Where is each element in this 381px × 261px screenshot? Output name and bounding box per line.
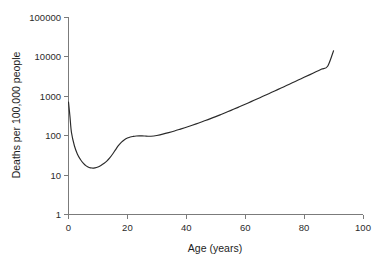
axes-group <box>69 17 364 215</box>
y-axis-tick-labels: 100000 10000 1000 100 10 1 <box>29 12 61 220</box>
data-series-line <box>69 51 334 168</box>
y-tick-label: 10000 <box>35 51 61 62</box>
y-axis-title: Deaths per 100,000 people <box>10 52 22 179</box>
y-axis-ticks <box>64 18 69 215</box>
y-tick-label: 100 <box>45 130 61 141</box>
chart-canvas: 100000 10000 1000 100 10 1 0 20 40 60 80… <box>0 0 381 261</box>
x-tick-label: 60 <box>240 222 251 233</box>
x-axis-title: Age (years) <box>188 242 242 254</box>
mortality-chart: 100000 10000 1000 100 10 1 0 20 40 60 80… <box>0 0 381 261</box>
x-tick-label: 40 <box>181 222 192 233</box>
y-tick-label: 100000 <box>29 12 61 23</box>
x-tick-label: 20 <box>122 222 133 233</box>
y-tick-label: 1000 <box>40 91 61 102</box>
x-axis-tick-labels: 0 20 40 60 80 100 <box>66 222 371 233</box>
x-tick-label: 100 <box>355 222 371 233</box>
x-tick-label: 80 <box>299 222 310 233</box>
x-axis-ticks <box>69 215 364 220</box>
x-tick-label: 0 <box>66 222 71 233</box>
y-tick-label: 1 <box>56 209 61 220</box>
y-tick-label: 10 <box>50 170 61 181</box>
